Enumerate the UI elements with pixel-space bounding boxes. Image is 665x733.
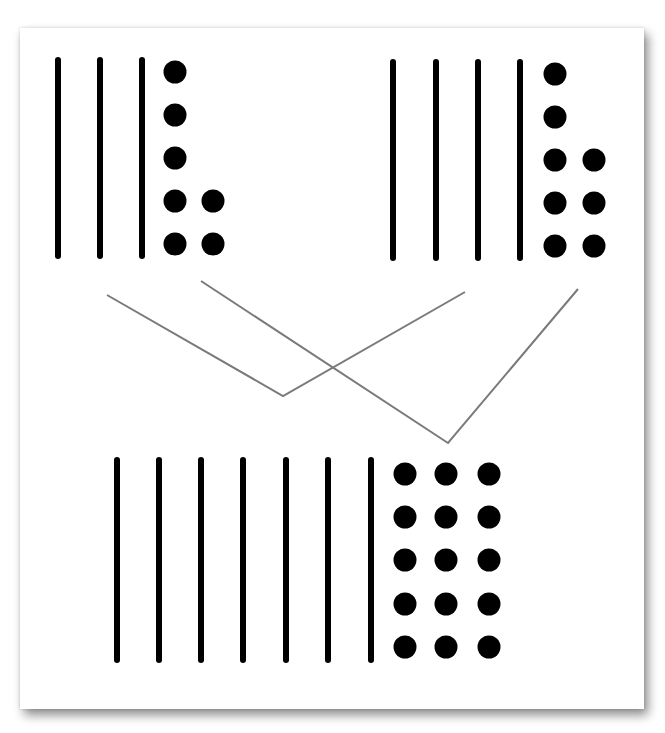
- place-value-diagram: [0, 0, 665, 733]
- connector-line-ones-join: [201, 281, 578, 443]
- one-dot: [394, 506, 417, 529]
- one-dot: [583, 149, 606, 172]
- one-dot: [544, 192, 567, 215]
- one-dot: [478, 593, 501, 616]
- one-dot: [478, 636, 501, 659]
- one-dot: [544, 63, 567, 86]
- one-dot: [435, 549, 458, 572]
- one-dot: [435, 636, 458, 659]
- one-dot: [202, 190, 225, 213]
- one-dot: [164, 233, 187, 256]
- one-dot: [544, 106, 567, 129]
- one-dot: [394, 636, 417, 659]
- one-dot: [583, 192, 606, 215]
- one-dot: [202, 233, 225, 256]
- one-dot: [544, 235, 567, 258]
- one-dot: [164, 61, 187, 84]
- one-dot: [478, 463, 501, 486]
- group-top-right: [393, 62, 606, 258]
- group-bottom: [117, 460, 501, 660]
- one-dot: [164, 104, 187, 127]
- one-dot: [435, 506, 458, 529]
- one-dot: [544, 149, 567, 172]
- one-dot: [435, 463, 458, 486]
- one-dot: [583, 235, 606, 258]
- one-dot: [164, 147, 187, 170]
- connector-line-tens-join: [107, 292, 465, 396]
- one-dot: [164, 190, 187, 213]
- one-dot: [435, 593, 458, 616]
- one-dot: [394, 463, 417, 486]
- one-dot: [478, 506, 501, 529]
- one-dot: [394, 593, 417, 616]
- one-dot: [478, 549, 501, 572]
- one-dot: [394, 549, 417, 572]
- group-top-left: [58, 60, 225, 256]
